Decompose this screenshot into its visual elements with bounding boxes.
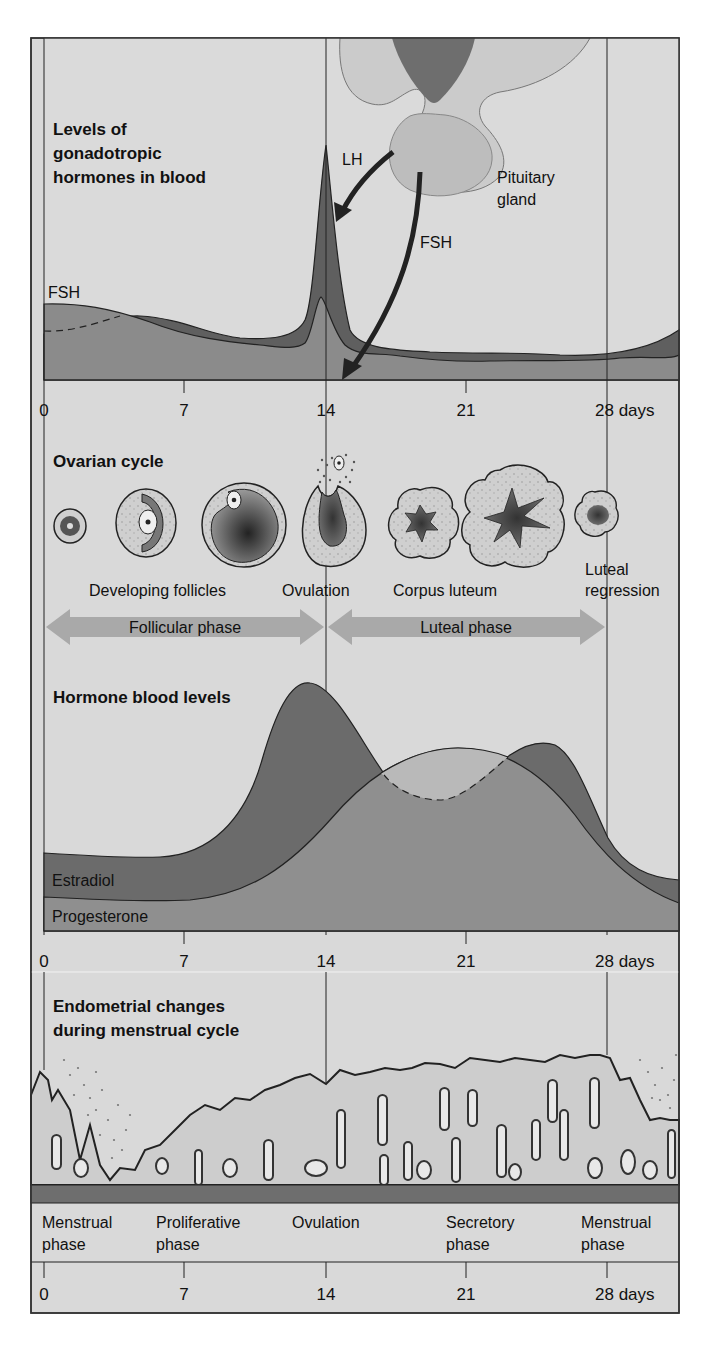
ovulation-stage-label: Ovulation bbox=[282, 582, 350, 599]
antral-follicle-icon bbox=[202, 483, 286, 567]
luteal-regression-label-line2: regression bbox=[585, 582, 660, 599]
tick-0: 0 bbox=[39, 1285, 48, 1304]
phase-label-menstrual-1: Menstrual bbox=[42, 1214, 112, 1231]
primary-follicle-icon bbox=[116, 489, 176, 557]
phase-label-secretory: Secretory bbox=[446, 1214, 514, 1231]
estradiol-label: Estradiol bbox=[52, 872, 114, 889]
gonadotropic-panel: Levels of gonadotropic hormones in blood… bbox=[44, 38, 679, 380]
luteal-regression-label-line1: Luteal bbox=[585, 561, 629, 578]
lh-arrow-label: LH bbox=[342, 151, 362, 168]
tick-28: 28 days bbox=[595, 952, 655, 971]
pituitary-label-line1: Pituitary bbox=[497, 169, 555, 186]
fsh-arrow-label: FSH bbox=[420, 234, 452, 251]
tick-28: 28 days bbox=[595, 1285, 655, 1304]
gonadotropic-title-line3: hormones in blood bbox=[53, 168, 206, 187]
endometrial-title-line2: during menstrual cycle bbox=[53, 1021, 239, 1040]
developing-follicles-label: Developing follicles bbox=[89, 582, 226, 599]
tick-0: 0 bbox=[39, 952, 48, 971]
endometrial-title-line1: Endometrial changes bbox=[53, 997, 225, 1016]
phase-label-ovulation: Ovulation bbox=[292, 1214, 360, 1231]
corpus-luteum-label: Corpus luteum bbox=[393, 582, 497, 599]
tick-7: 7 bbox=[179, 1285, 188, 1304]
progesterone-label: Progesterone bbox=[52, 908, 148, 925]
tick-0: 0 bbox=[39, 401, 48, 420]
tick-14: 14 bbox=[317, 1285, 336, 1304]
phase-label-menstrual-2-line2: phase bbox=[581, 1236, 625, 1253]
tick-7: 7 bbox=[179, 952, 188, 971]
tick-14: 14 bbox=[317, 401, 336, 420]
phase-label-secretory-line2: phase bbox=[446, 1236, 490, 1253]
basal-layer-band bbox=[31, 1185, 679, 1203]
phase-label-proliferative-line2: phase bbox=[156, 1236, 200, 1253]
gonadotropic-title-line2: gonadotropic bbox=[53, 144, 162, 163]
hormone-levels-title: Hormone blood levels bbox=[53, 688, 231, 707]
tick-21: 21 bbox=[457, 952, 476, 971]
tick-21: 21 bbox=[457, 401, 476, 420]
fsh-curve-label: FSH bbox=[48, 284, 80, 301]
tick-28: 28 days bbox=[595, 401, 655, 420]
tick-14: 14 bbox=[317, 952, 336, 971]
phase-label-proliferative: Proliferative bbox=[156, 1214, 241, 1231]
gonadotropic-title-line1: Levels of bbox=[53, 120, 127, 139]
corpus-luteum-small-icon bbox=[389, 488, 459, 559]
menstrual-cycle-diagram: Levels of gonadotropic hormones in blood… bbox=[0, 0, 710, 1347]
tick-21: 21 bbox=[457, 1285, 476, 1304]
ovarian-title: Ovarian cycle bbox=[53, 452, 164, 471]
follicular-phase-label: Follicular phase bbox=[129, 619, 241, 636]
phase-label-menstrual-2: Menstrual bbox=[581, 1214, 651, 1231]
phase-label-menstrual-1-line2: phase bbox=[42, 1236, 86, 1253]
primordial-follicle-icon bbox=[54, 509, 86, 543]
pituitary-label-line2: gland bbox=[497, 191, 536, 208]
luteal-phase-label: Luteal phase bbox=[420, 619, 512, 636]
tick-7: 7 bbox=[179, 401, 188, 420]
